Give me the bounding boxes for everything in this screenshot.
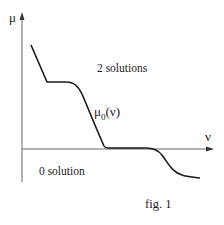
figure-canvas: μ ν 2 solutions 0 solution μ0(ν) fig. 1 — [0, 0, 224, 225]
curve-label-main: μ — [94, 104, 101, 119]
curve-label-arg: (ν) — [105, 104, 120, 119]
y-axis-arrow-icon — [20, 12, 25, 20]
x-axis-label: ν — [205, 129, 211, 144]
region-below-label: 0 solution — [39, 165, 85, 177]
figure-caption: fig. 1 — [145, 197, 171, 211]
curve-label: μ0(ν) — [94, 104, 120, 122]
y-axis-label: μ — [9, 10, 16, 25]
region-above-label: 2 solutions — [97, 62, 148, 74]
x-axis-arrow-icon — [206, 147, 214, 152]
